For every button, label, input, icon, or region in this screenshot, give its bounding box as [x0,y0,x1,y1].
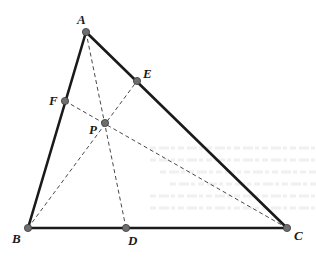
dashed-cevians [28,32,287,228]
label-E: E [142,66,152,81]
page-bleed-through [150,148,316,208]
point-D-icon [122,224,129,231]
label-D: D [127,233,138,248]
side-AB [28,32,86,228]
triangle-diagram: ABCDEFP [0,0,316,259]
label-P: P [89,122,98,137]
triangle-sides [28,32,287,228]
label-F: F [48,93,58,108]
label-B: B [11,231,21,246]
point-C-icon [283,224,290,231]
point-A-icon [82,28,89,35]
cevian-BE [28,81,137,228]
point-F-icon [61,97,68,104]
label-A: A [76,12,86,27]
label-C: C [294,228,303,243]
point-P-icon [101,119,108,126]
point-E-icon [133,77,140,84]
vertex-points [24,28,290,231]
point-B-icon [24,224,31,231]
